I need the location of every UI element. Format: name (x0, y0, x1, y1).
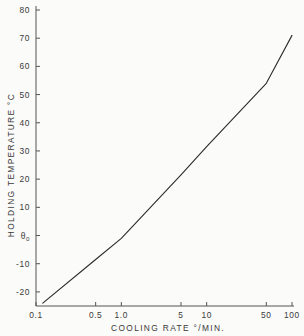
y-tick-label: 70 (19, 33, 30, 43)
semilog-line-chart: 8070605040302010θ0-10-20 0.10.51.0510501… (0, 0, 304, 336)
x-tick-label: 0.1 (29, 310, 42, 320)
chart-background (0, 0, 304, 336)
y-axis-title: HOLDING TEMPERATURE °C (6, 93, 16, 237)
x-tick-label: 0.5 (89, 310, 102, 320)
y-tick-label: -10 (16, 259, 30, 269)
y-tick-label: 40 (19, 118, 30, 128)
y-tick-label: 30 (19, 146, 30, 156)
x-tick-label: 50 (261, 310, 272, 320)
y-tick-label: 60 (19, 61, 30, 71)
y-tick-label: 50 (19, 90, 30, 100)
x-tick-label: 100 (284, 310, 300, 320)
chart-figure: 8070605040302010θ0-10-20 0.10.51.0510501… (0, 0, 304, 336)
x-tick-label: 10 (201, 310, 212, 320)
y-tick-label: 10 (19, 202, 30, 212)
x-tick-label: 1.0 (115, 310, 128, 320)
x-tick-label: 5 (178, 310, 183, 320)
y-tick-label: -20 (16, 287, 30, 297)
x-axis-title: COOLING RATE °/MIN. (111, 323, 225, 333)
y-tick-label: 20 (19, 174, 30, 184)
y-tick-label: 80 (19, 5, 30, 15)
